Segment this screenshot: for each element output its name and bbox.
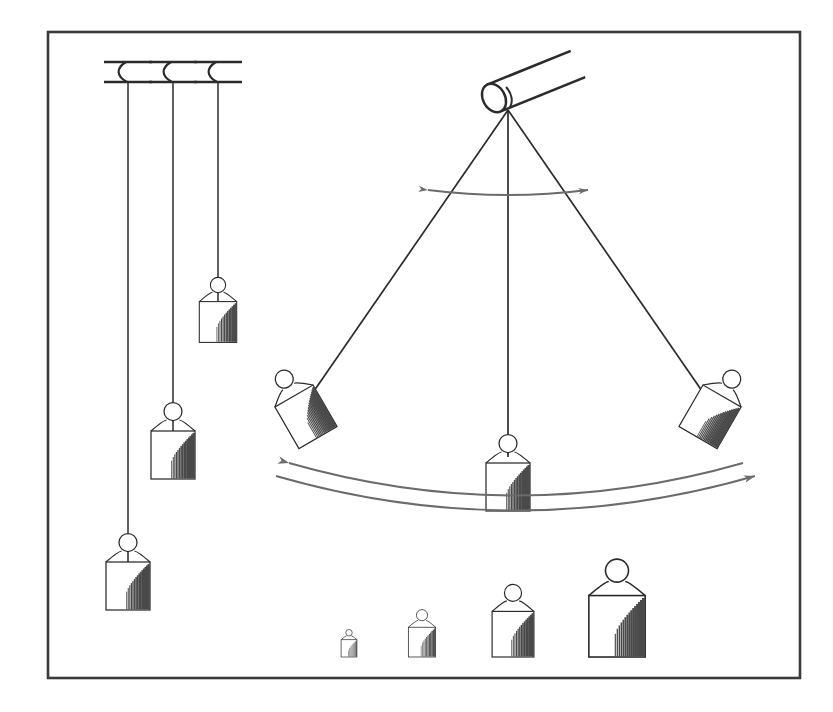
calibration-weight-row — [341, 559, 645, 657]
rod-end-cap — [477, 80, 511, 117]
bob-shoulder-right — [224, 292, 237, 301]
bracket-3 — [194, 62, 242, 82]
ceiling-bracket-group — [104, 62, 242, 82]
bob-shoulder-right — [426, 620, 436, 627]
bob-shoulder-left — [151, 420, 167, 431]
weight-medium — [492, 584, 534, 657]
swinging-pendulum-group — [261, 110, 756, 511]
bob-shoulder-right — [179, 420, 195, 431]
position-left-extreme — [261, 110, 508, 449]
pendulum-bob — [151, 403, 195, 480]
pendulum-bob — [106, 534, 150, 611]
bracket-2 — [149, 62, 197, 82]
pendulum-diagram-canvas — [0, 0, 833, 712]
bob-shoulder-right — [514, 452, 530, 463]
bob-shoulder-left — [106, 551, 122, 562]
weight-small — [408, 610, 435, 657]
bob-shoulder-left — [486, 452, 502, 463]
weight-smallest — [341, 629, 357, 657]
pendulum-string — [311, 110, 508, 395]
pendulum-figure — [0, 0, 833, 712]
bracket-1 — [104, 62, 152, 82]
bob-shoulder-right — [625, 581, 645, 595]
bob-ring — [119, 534, 137, 552]
bob-ring — [719, 367, 744, 392]
bob-ring — [416, 610, 427, 621]
bracket-hook — [164, 62, 172, 82]
pendulum-bob — [199, 277, 236, 342]
hanging-pendulum-group — [106, 82, 237, 610]
pendulum-string — [508, 110, 705, 395]
bob-shoulder-left — [341, 636, 347, 640]
pendulum-short — [199, 82, 236, 342]
cylindrical-rod-pivot — [477, 51, 585, 117]
weight-large — [589, 559, 645, 657]
bracket-hook — [209, 62, 217, 82]
bob-ring — [346, 629, 352, 635]
bob-shoulder-right — [351, 636, 357, 640]
bob-ring — [504, 584, 521, 601]
rod-edge-upper — [487, 51, 571, 85]
pendulum-long — [106, 82, 150, 610]
bob-shoulder-left — [199, 292, 212, 301]
bob-ring — [164, 403, 182, 421]
position-right-extreme — [508, 110, 755, 449]
bob-ring — [499, 435, 517, 453]
bob-body — [341, 640, 357, 657]
bob-shoulder-left — [408, 620, 418, 627]
bob-shoulder-left — [492, 601, 507, 611]
bob-ring — [272, 367, 297, 392]
position-center-rest — [486, 110, 530, 511]
diagram-border — [48, 32, 800, 678]
pendulum-medium — [151, 82, 195, 479]
bob-shoulder-left — [589, 581, 609, 595]
bob-ring — [210, 277, 225, 292]
bob-shoulder-right — [134, 551, 150, 562]
pendulum-bob — [486, 435, 530, 512]
bob-ring — [605, 559, 628, 582]
bob-shoulder-right — [519, 601, 534, 611]
bracket-hook — [119, 62, 127, 82]
rod-edge-lower — [501, 77, 585, 111]
